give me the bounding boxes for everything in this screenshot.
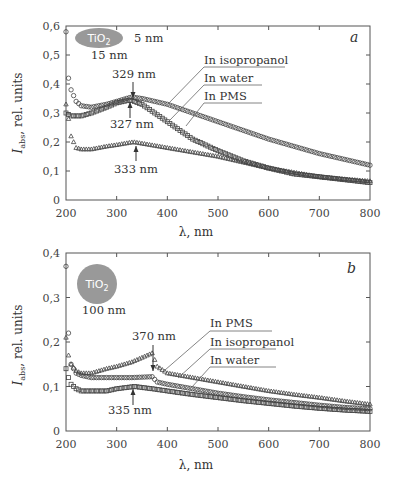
y-tick-label: 0 bbox=[53, 425, 60, 438]
legend-label: In PMS bbox=[204, 89, 247, 103]
y-tick-label: 0,1 bbox=[43, 381, 61, 394]
series-in-water bbox=[64, 98, 372, 184]
peak-annotation: 370 nm bbox=[132, 329, 176, 343]
arrow-icon bbox=[131, 389, 136, 395]
y-axis-title: Iabs, rel. units bbox=[11, 305, 27, 387]
panel-letter: a bbox=[350, 29, 358, 45]
y-tick-label: 0,2 bbox=[43, 336, 61, 349]
chart-panel-a: 20030040050060070080000,10,20,30,40,50,6… bbox=[11, 20, 381, 239]
panel-letter: b bbox=[347, 260, 356, 276]
x-tick-label: 700 bbox=[309, 207, 330, 220]
legend-label: In isopropanol bbox=[204, 53, 288, 67]
x-tick-label: 500 bbox=[208, 207, 229, 220]
size-label: 100 nm bbox=[82, 303, 126, 317]
y-tick-label: 0,4 bbox=[43, 247, 61, 260]
y-tick-label: 0,3 bbox=[43, 107, 61, 120]
y-tick-label: 0,2 bbox=[43, 136, 61, 149]
peak-annotation: 327 nm bbox=[110, 117, 154, 131]
x-axis-title: λ, nm bbox=[179, 225, 214, 239]
x-tick-label: 600 bbox=[258, 207, 279, 220]
legend-label: In water bbox=[204, 71, 254, 85]
y-tick-label: 0,3 bbox=[43, 292, 61, 305]
x-tick-label: 200 bbox=[56, 438, 77, 451]
y-axis-title: Iabs, rel. units bbox=[11, 73, 27, 155]
x-axis-title: λ, nm bbox=[179, 458, 214, 472]
arrow-icon bbox=[134, 146, 139, 152]
size-label: 15 nm bbox=[91, 48, 128, 62]
figure: 20030040050060070080000,10,20,30,40,50,6… bbox=[0, 0, 393, 484]
x-tick-label: 400 bbox=[157, 207, 178, 220]
x-tick-label: 200 bbox=[56, 207, 77, 220]
size-label: 5 nm bbox=[134, 31, 163, 45]
legend-label: In water bbox=[210, 353, 260, 367]
x-tick-label: 500 bbox=[208, 438, 229, 451]
series-in-pms bbox=[64, 102, 372, 183]
chart-panel-b: 20030040050060070080000,10,20,30,4In PMS… bbox=[11, 247, 381, 472]
peak-annotation: 333 nm bbox=[114, 162, 158, 176]
x-tick-label: 700 bbox=[309, 438, 330, 451]
peak-annotation: 329 nm bbox=[112, 67, 156, 81]
x-tick-label: 300 bbox=[106, 438, 127, 451]
x-tick-label: 600 bbox=[258, 438, 279, 451]
legend-label: In PMS bbox=[210, 316, 253, 330]
x-tick-label: 800 bbox=[360, 438, 381, 451]
peak-annotation: 335 nm bbox=[108, 403, 152, 417]
y-tick-label: 0,6 bbox=[43, 20, 61, 33]
x-tick-label: 400 bbox=[157, 438, 178, 451]
y-tick-label: 0,5 bbox=[43, 49, 61, 62]
x-tick-label: 800 bbox=[360, 207, 381, 220]
legend-label: In isopropanol bbox=[210, 335, 294, 349]
y-tick-label: 0,1 bbox=[43, 165, 61, 178]
x-tick-label: 300 bbox=[106, 207, 127, 220]
y-tick-label: 0 bbox=[53, 194, 60, 207]
y-tick-label: 0,4 bbox=[43, 78, 61, 91]
